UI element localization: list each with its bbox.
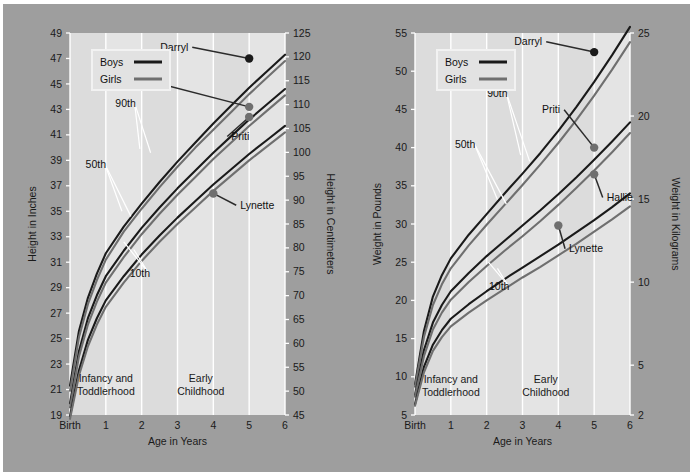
figure-frame: 1921232527293133353739414345474945505560…: [3, 4, 690, 472]
band-caption: Childhood: [522, 386, 569, 398]
point-label-priti: Priti: [231, 130, 249, 142]
x-axis-title: Age in Years: [148, 435, 207, 447]
x-tick-label: 5: [591, 419, 597, 431]
x-tick-label: Birth: [404, 419, 426, 431]
y-tick-label-left: 33: [50, 230, 62, 242]
legend-label-boys: Boys: [445, 56, 468, 68]
growth-charts-figure: 1921232527293133353739414345474945505560…: [0, 0, 693, 476]
y-tick-label-left: 15: [395, 332, 407, 344]
x-tick-label: 3: [175, 419, 181, 431]
y-axis-title-left: Height in Inches: [26, 186, 38, 261]
y-tick-label-left: 29: [50, 281, 62, 293]
x-tick-label: 2: [484, 419, 490, 431]
x-tick-label: Birth: [59, 419, 81, 431]
y-tick-label-left: 23: [50, 358, 62, 370]
y-tick-label-left: 25: [395, 256, 407, 268]
data-point-priti[interactable]: [590, 143, 598, 151]
y-axis-title-left: Weight in Pounds: [371, 183, 383, 265]
y-tick-label-right: 45: [293, 409, 305, 421]
y-tick-label-right: 75: [293, 265, 305, 277]
band-caption: Early: [189, 372, 214, 384]
y-tick-label-right: 125: [293, 27, 311, 39]
y-tick-label-left: 35: [50, 205, 62, 217]
data-point-priti[interactable]: [245, 113, 253, 121]
x-tick-label: 3: [520, 419, 526, 431]
x-tick-label: 4: [210, 419, 216, 431]
y-tick-label-left: 45: [50, 78, 62, 90]
y-tick-label-right: 2: [638, 409, 644, 421]
charts-svg: 1921232527293133353739414345474945505560…: [3, 4, 690, 472]
point-label-darryl: Darryl: [514, 35, 542, 47]
y-tick-label-right: 95: [293, 170, 305, 182]
data-point-darryl[interactable]: [245, 54, 253, 62]
y-tick-label-right: 55: [293, 361, 305, 373]
y-tick-label-left: 20: [395, 294, 407, 306]
band-caption: Early: [534, 373, 559, 385]
y-tick-label-left: 41: [50, 128, 62, 140]
point-label-lynette: Lynette: [569, 242, 603, 254]
y-tick-label-right: 25: [638, 27, 650, 39]
weight-chart: 5101520253035404550552510152025Birth1234…: [371, 27, 682, 447]
data-point-lynette[interactable]: [554, 221, 562, 229]
y-tick-label-left: 21: [50, 383, 62, 395]
data-point-darryl[interactable]: [590, 48, 598, 56]
data-point-hallie[interactable]: [590, 170, 598, 178]
x-tick-label: 6: [282, 419, 288, 431]
point-label-hallie: Hallie: [607, 191, 633, 203]
percentile-label: 10th: [130, 267, 151, 279]
y-tick-label-right: 60: [293, 337, 305, 349]
y-tick-label-right: 105: [293, 122, 311, 134]
x-tick-label: 1: [103, 419, 109, 431]
x-tick-label: 2: [139, 419, 145, 431]
x-axis-title: Age in Years: [493, 435, 552, 447]
percentile-label: 10th: [489, 280, 510, 292]
legend-label-girls: Girls: [445, 73, 467, 85]
y-tick-label-left: 35: [395, 179, 407, 191]
data-point-hallie[interactable]: [245, 103, 253, 111]
band-caption: Childhood: [177, 385, 224, 397]
y-tick-label-right: 5: [638, 359, 644, 371]
data-point-lynette[interactable]: [209, 189, 217, 197]
legend-label-girls: Girls: [100, 73, 122, 85]
y-tick-label-left: 37: [50, 179, 62, 191]
y-tick-label-right: 120: [293, 50, 311, 62]
y-tick-label-left: 55: [395, 27, 407, 39]
x-tick-label: 1: [448, 419, 454, 431]
band-caption: Infancy and: [424, 373, 478, 385]
x-tick-label: 6: [627, 419, 633, 431]
legend-label-boys: Boys: [100, 56, 123, 68]
y-axis-title-right: Height in Centimeters: [325, 174, 337, 275]
y-tick-label-left: 39: [50, 154, 62, 166]
percentile-label: 50th: [86, 158, 107, 170]
shaded-band: [213, 33, 249, 415]
percentile-label: 90th: [115, 97, 136, 109]
band-caption: Infancy and: [79, 372, 133, 384]
y-tick-label-right: 50: [293, 385, 305, 397]
y-tick-label-left: 45: [395, 103, 407, 115]
x-tick-label: 4: [555, 419, 561, 431]
x-tick-label: 5: [246, 419, 252, 431]
y-tick-label-right: 115: [293, 74, 310, 86]
y-axis-title-right: Weight in Kilograms: [670, 177, 682, 270]
y-tick-label-right: 110: [293, 98, 310, 110]
y-tick-label-right: 15: [638, 193, 650, 205]
y-tick-label-right: 70: [293, 289, 305, 301]
point-label-priti: Priti: [542, 103, 560, 115]
point-label-lynette: Lynette: [240, 199, 274, 211]
y-tick-label-right: 85: [293, 218, 305, 230]
y-tick-label-left: 10: [395, 370, 407, 382]
y-tick-label-left: 40: [395, 141, 407, 153]
y-tick-label-left: 43: [50, 103, 62, 115]
percentile-label: 50th: [455, 138, 476, 150]
legend: BoysGirls: [437, 50, 515, 90]
y-tick-label-left: 27: [50, 307, 62, 319]
legend: BoysGirls: [92, 50, 170, 90]
y-tick-label-right: 90: [293, 194, 305, 206]
y-tick-label-right: 100: [293, 146, 311, 158]
y-tick-label-left: 49: [50, 27, 62, 39]
band-caption: Toddlerhood: [77, 385, 135, 397]
height-chart: 1921232527293133353739414345474945505560…: [26, 27, 337, 447]
y-tick-label-right: 80: [293, 241, 305, 253]
y-tick-label-right: 20: [638, 110, 650, 122]
y-tick-label-left: 47: [50, 52, 62, 64]
